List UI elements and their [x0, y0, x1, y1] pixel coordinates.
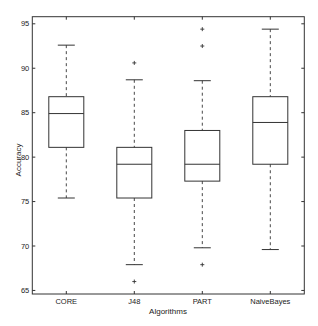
- box-plot-series: [49, 27, 288, 283]
- x-tick-label-j48: J48: [128, 297, 140, 306]
- box-plot-chart: 65707580859095 COREJ48PARTNaiveBayes Alg…: [0, 0, 318, 326]
- x-tick-label-core: CORE: [55, 297, 77, 306]
- x-tick-label-naivebayes: NaiveBayes: [250, 297, 290, 306]
- box-naivebayes: [253, 29, 288, 249]
- y-axis-title: Accuracy: [14, 144, 23, 177]
- iqr-box: [253, 97, 288, 165]
- y-tick-label: 70: [21, 242, 29, 251]
- y-tick-label: 65: [21, 286, 29, 295]
- outlier-marker: [132, 280, 136, 284]
- y-tick-label: 90: [21, 64, 29, 73]
- x-axis: COREJ48PARTNaiveBayes: [55, 17, 290, 306]
- axes-frame: [32, 17, 304, 294]
- y-tick-label: 75: [21, 197, 29, 206]
- box-part: [185, 27, 220, 267]
- x-axis-title: Algorithms: [149, 307, 187, 316]
- iqr-box: [117, 147, 152, 198]
- box-j48: [117, 61, 152, 284]
- x-tick-label-part: PART: [193, 297, 213, 306]
- iqr-box: [185, 130, 220, 181]
- outlier-marker: [200, 263, 204, 267]
- outlier-marker: [132, 61, 136, 65]
- y-tick-label: 95: [21, 19, 29, 28]
- outlier-marker: [200, 27, 204, 31]
- y-axis: 65707580859095: [21, 19, 304, 295]
- y-tick-label: 85: [21, 108, 29, 117]
- outlier-marker: [200, 44, 204, 48]
- iqr-box: [49, 97, 84, 148]
- box-core: [49, 45, 84, 198]
